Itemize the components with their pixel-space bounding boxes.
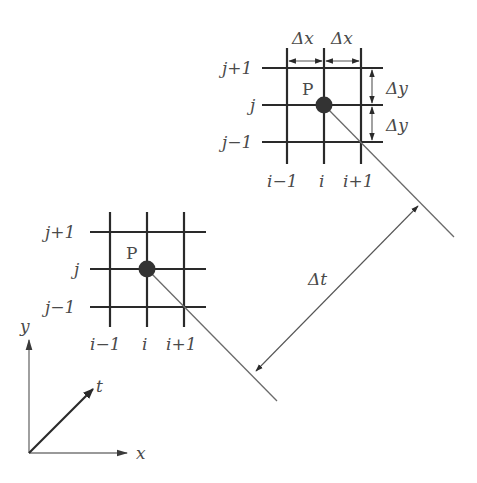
upper-point-label: P	[302, 79, 313, 99]
dy-label-2: Δy	[385, 115, 408, 135]
x-axis-label: x	[136, 443, 146, 463]
upper-row-label-j-plus-1: j+1	[218, 58, 252, 78]
lower-row-label-j: j	[70, 259, 80, 279]
y-axis-label: y	[19, 316, 30, 336]
dt-label: Δt	[307, 269, 327, 289]
dt-arrow	[256, 206, 418, 371]
upper-col-label-i-minus-1: i−1	[267, 171, 298, 191]
coordinate-axes: y x t	[19, 316, 146, 463]
dy-label-1: Δy	[385, 78, 408, 98]
lower-grid: j+1 j j−1 i−1 i i+1 P	[41, 212, 206, 354]
upper-row-label-j-minus-1: j−1	[218, 132, 252, 152]
lower-col-label-i-plus-1: i+1	[166, 334, 197, 354]
upper-row-label-j: j	[246, 95, 256, 115]
lower-node-p	[139, 261, 156, 278]
diagram-svg: Δx Δx Δy Δy j+1 j j−1 i−1 i i+1 P j+1 j …	[0, 0, 477, 483]
lower-col-label-i: i	[142, 334, 147, 354]
t-axis	[29, 389, 93, 453]
lower-col-label-i-minus-1: i−1	[90, 334, 121, 354]
upper-grid: Δx Δx Δy Δy j+1 j j−1 i−1 i i+1 P	[218, 28, 408, 191]
diagram-canvas: Δx Δx Δy Δy j+1 j j−1 i−1 i i+1 P j+1 j …	[0, 0, 477, 483]
lower-row-label-j-plus-1: j+1	[41, 222, 75, 242]
dx-label-2: Δx	[330, 28, 353, 48]
upper-node-p	[316, 97, 333, 114]
upper-col-label-i: i	[319, 171, 324, 191]
dx-label-1: Δx	[291, 28, 314, 48]
lower-row-label-j-minus-1: j−1	[41, 297, 75, 317]
t-axis-label: t	[96, 376, 103, 396]
upper-col-label-i-plus-1: i+1	[343, 171, 374, 191]
lower-point-label: P	[126, 243, 137, 263]
